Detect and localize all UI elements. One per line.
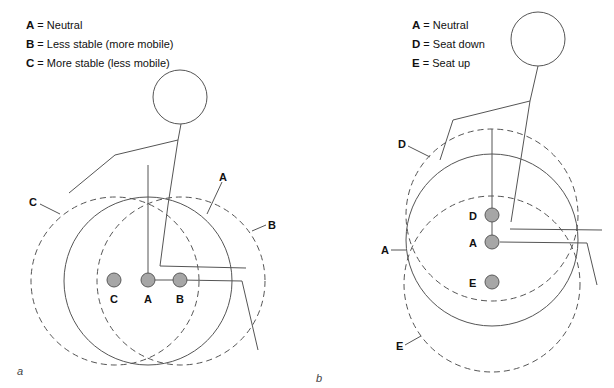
head-icon	[511, 12, 565, 66]
circle-label-a: A	[219, 171, 227, 183]
head-icon	[153, 70, 207, 124]
circle-label-e: E	[396, 340, 403, 352]
leader-b	[252, 225, 266, 231]
panel-letter-a: a	[17, 365, 23, 377]
circle-label-b: B	[268, 219, 276, 231]
axle-dot-e	[485, 275, 499, 289]
footrest-line	[500, 242, 597, 285]
leader-e	[405, 336, 421, 345]
leader-d	[408, 146, 430, 157]
axle-dot-d	[485, 208, 499, 222]
leg-line	[510, 229, 602, 230]
circle-label-c: C	[29, 196, 37, 208]
wheelchair-diagram: C A B C A B a D A E D A E b	[0, 0, 614, 388]
axle-dot-a	[141, 273, 155, 287]
axle-dot-b	[173, 273, 187, 287]
dot-label-e: E	[469, 277, 476, 289]
dot-label-b: B	[176, 293, 184, 305]
arm-line	[440, 101, 530, 160]
dot-label-c: C	[110, 293, 118, 305]
dot-label-a: A	[144, 293, 152, 305]
axle-dot-a	[485, 235, 499, 249]
dot-label-d: D	[469, 210, 477, 222]
dot-label-a: A	[469, 237, 477, 249]
torso-line	[168, 124, 181, 205]
panel-letter-b: b	[316, 372, 322, 384]
arm-line	[69, 140, 178, 193]
circle-label-d: D	[398, 138, 406, 150]
leader-a	[207, 182, 222, 214]
panel-a-figure	[31, 70, 266, 365]
torso-line	[511, 66, 538, 222]
circle-label-a: A	[381, 244, 389, 256]
leader-c	[40, 204, 60, 214]
leg-line	[160, 205, 246, 268]
panel-b-figure	[391, 12, 602, 372]
axle-dot-c	[107, 273, 121, 287]
